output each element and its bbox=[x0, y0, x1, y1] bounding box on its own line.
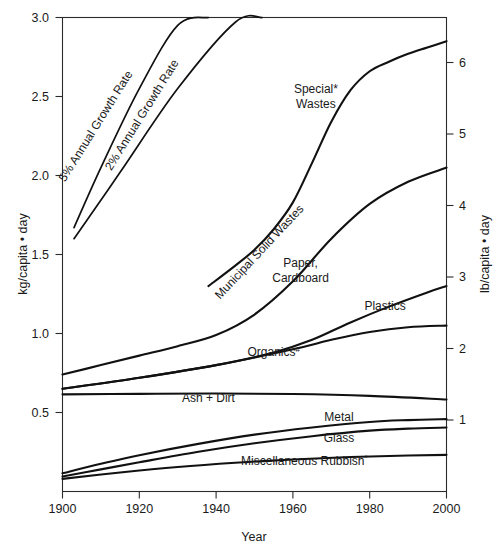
right-tick-labels: 6 5 4 3 2 1 bbox=[459, 56, 466, 427]
bottom-axis-ticks bbox=[63, 492, 447, 499]
left-ytick-label: 3.0 bbox=[32, 11, 49, 25]
series-label: Glass bbox=[324, 431, 355, 445]
series-label-line2: Cardboard bbox=[272, 271, 329, 285]
series-label: Special* bbox=[294, 82, 338, 96]
left-ytick-label: 0.5 bbox=[32, 406, 49, 420]
left-tick-labels: 3.0 2.5 2.0 1.5 1.0 0.5 bbox=[32, 11, 49, 420]
series-line-ash-dirt bbox=[63, 394, 447, 400]
right-ytick-label: 2 bbox=[459, 342, 466, 356]
series-line-paper-cardboard bbox=[63, 168, 447, 375]
series-label-superscript: # bbox=[295, 345, 300, 354]
xtick-label: 1940 bbox=[202, 502, 230, 516]
series-line-special-wastes bbox=[208, 41, 446, 286]
series-label: Organics# bbox=[247, 345, 300, 360]
series-label-line2: Wastes bbox=[296, 97, 336, 111]
xtick-label: 1900 bbox=[49, 502, 77, 516]
series-label: Miscellaneous Rubbish° bbox=[241, 454, 368, 469]
series-label: Metal bbox=[324, 410, 353, 424]
series-label: Paper, bbox=[283, 256, 318, 270]
x-axis-title: Year bbox=[241, 530, 266, 544]
xtick-label: 1920 bbox=[125, 502, 153, 516]
left-ytick-label: 1.5 bbox=[32, 248, 49, 262]
series-label-superscript: ° bbox=[365, 454, 368, 463]
series-label-municipal-solid-wastes: Municipal Solid Wastes bbox=[212, 202, 307, 302]
xtick-label: 1960 bbox=[279, 502, 307, 516]
right-axis-ticks bbox=[447, 63, 454, 421]
series-annotations-group: 5% Annual Growth Rate2% Annual Growth Ra… bbox=[56, 57, 406, 469]
left-ytick-label: 1.0 bbox=[32, 327, 49, 341]
series-label: Plastics bbox=[364, 299, 405, 313]
left-ytick-label: 2.0 bbox=[32, 169, 49, 183]
right-ytick-label: 4 bbox=[459, 199, 466, 213]
right-ytick-label: 6 bbox=[459, 56, 466, 70]
bottom-tick-labels: 1900 1920 1940 1960 1980 2000 bbox=[49, 502, 461, 516]
series-label: 2% Annual Growth Rate bbox=[102, 57, 182, 173]
figure-container: 3.0 2.5 2.0 1.5 1.0 0.5 6 5 4 3 2 1 1900… bbox=[0, 0, 501, 553]
right-ytick-label: 3 bbox=[459, 270, 466, 284]
series-label: Ash + Dirt bbox=[182, 391, 236, 405]
left-axis-ticks bbox=[56, 18, 63, 413]
xtick-label: 1980 bbox=[356, 502, 384, 516]
left-ytick-label: 2.5 bbox=[32, 90, 49, 104]
right-ytick-label: 5 bbox=[459, 127, 466, 141]
waste-generation-line-chart: 3.0 2.5 2.0 1.5 1.0 0.5 6 5 4 3 2 1 1900… bbox=[0, 0, 501, 553]
y-axis-title-right: lb/capita • day bbox=[478, 214, 492, 293]
y-axis-title-left: kg/capita • day bbox=[16, 213, 30, 295]
xtick-label: 2000 bbox=[433, 502, 461, 516]
right-ytick-label: 1 bbox=[459, 413, 466, 427]
